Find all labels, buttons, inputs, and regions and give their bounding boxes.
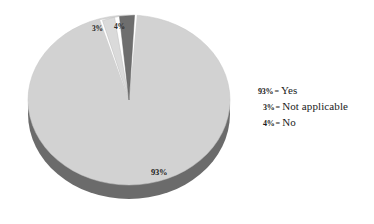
legend-percent-yes: 93% (258, 87, 273, 96)
legend-separator: = (274, 87, 279, 96)
chart-legend: 93% = Yes 3% = Not applicable 4% = No (258, 84, 372, 132)
slice-data-label-not-applicable: 3% (92, 24, 103, 33)
legend-percent-not-applicable: 3% (263, 103, 275, 112)
legend-item-yes: 93% = Yes (258, 84, 372, 100)
pie-chart-graphic: 93% 3% 4% (14, 4, 254, 209)
legend-item-not-applicable: 3% = Not applicable (258, 100, 372, 116)
legend-label-yes: Yes (281, 84, 297, 96)
legend-label-not-applicable: Not applicable (282, 100, 348, 112)
legend-percent-no: 4% (263, 119, 275, 128)
pie-svg: 93% 3% 4% (14, 4, 254, 209)
pie-chart-figure: 93% 3% 4% 93% = Yes 3% = Not applicable … (0, 0, 374, 224)
legend-separator: = (276, 119, 281, 128)
legend-item-no: 4% = No (258, 116, 372, 132)
legend-label-no: No (282, 116, 296, 128)
slice-data-label-no: 4% (114, 22, 125, 31)
slice-data-label-yes: 93% (151, 167, 167, 177)
legend-separator: = (276, 103, 281, 112)
